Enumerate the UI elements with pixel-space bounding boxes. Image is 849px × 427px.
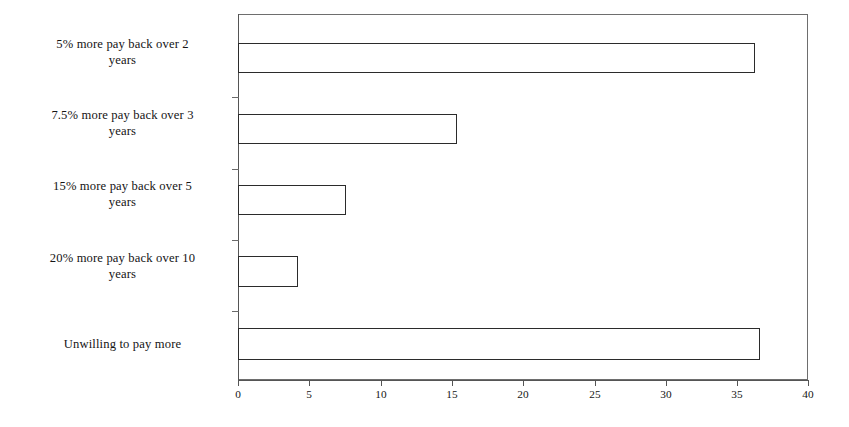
category-label-5-percent-2-years: 5% more pay back over 2 years — [15, 36, 230, 68]
x-tick-mark-20 — [523, 381, 524, 386]
x-tick-label-10: 10 — [361, 388, 401, 400]
category-label-20-percent-10-years: 20% more pay back over 10 years — [15, 250, 230, 282]
y-axis-minor-tick — [232, 97, 239, 98]
x-tick-mark-25 — [595, 381, 596, 386]
x-tick-label-40: 40 — [788, 388, 828, 400]
category-label-line: 20% more pay back over 10 — [15, 250, 230, 266]
x-tick-mark-15 — [452, 381, 453, 386]
category-label-line: Unwilling to pay more — [15, 336, 230, 352]
y-axis-minor-tick — [232, 169, 239, 170]
category-label-line: 7.5% more pay back over 3 — [15, 107, 230, 123]
bar-unwilling-to-pay[interactable] — [238, 328, 760, 360]
category-label-line: years — [15, 123, 230, 139]
bar-20-percent-10-years[interactable] — [238, 256, 298, 287]
x-tick-label-5: 5 — [289, 388, 329, 400]
chart-screenshot: 5% more pay back over 2 years 7.5% more … — [0, 0, 849, 427]
x-tick-mark-30 — [666, 381, 667, 386]
bar-5-percent-2-years[interactable] — [238, 43, 755, 73]
category-label-unwilling-to-pay: Unwilling to pay more — [15, 336, 230, 352]
x-tick-label-35: 35 — [717, 388, 757, 400]
x-tick-label-20: 20 — [503, 388, 543, 400]
bar-15-percent-5-years[interactable] — [238, 185, 346, 215]
x-tick-mark-5 — [309, 381, 310, 386]
x-tick-label-0: 0 — [218, 388, 258, 400]
x-tick-mark-40 — [808, 381, 809, 386]
x-tick-mark-10 — [381, 381, 382, 386]
category-label-line: 5% more pay back over 2 — [15, 36, 230, 52]
category-label-line: 15% more pay back over 5 — [15, 178, 230, 194]
category-label-line: years — [15, 266, 230, 282]
category-label-line: years — [15, 52, 230, 68]
category-label-line: years — [15, 194, 230, 210]
x-tick-label-30: 30 — [646, 388, 686, 400]
y-axis-minor-tick — [232, 240, 239, 241]
x-tick-label-25: 25 — [575, 388, 615, 400]
x-tick-label-15: 15 — [432, 388, 472, 400]
x-tick-mark-0 — [238, 381, 239, 386]
y-axis-minor-tick — [232, 311, 239, 312]
x-tick-mark-35 — [737, 381, 738, 386]
category-label-15-percent-5-years: 15% more pay back over 5 years — [15, 178, 230, 210]
category-label-7p5-percent-3-years: 7.5% more pay back over 3 years — [15, 107, 230, 139]
bar-7p5-percent-3-years[interactable] — [238, 114, 457, 144]
